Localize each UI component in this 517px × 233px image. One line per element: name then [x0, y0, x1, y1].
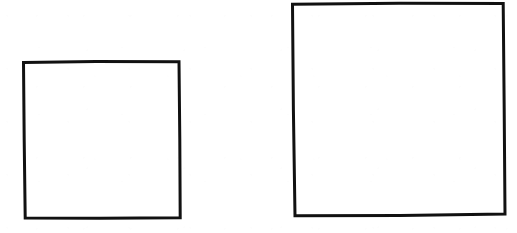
two-squares-figure — [0, 0, 517, 233]
canvas-background — [0, 0, 517, 233]
drawing-canvas — [0, 0, 517, 233]
